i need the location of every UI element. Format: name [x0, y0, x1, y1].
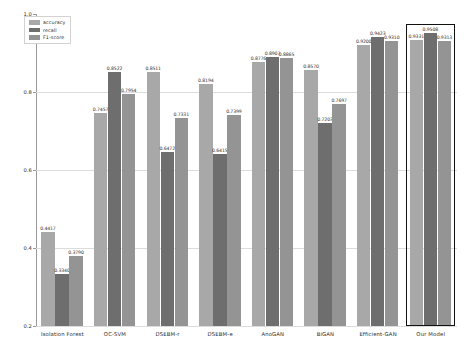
bar-group: 0.74570.85220.7954 [94, 14, 136, 326]
y-axis-tick-label: 0.4 [23, 245, 32, 251]
bar-value-label: 0.9313 [437, 35, 452, 40]
bar-f1-score: 0.8865 [280, 58, 293, 326]
y-axis-tick-label: 0.8 [23, 89, 32, 95]
bar-value-label: 0.8570 [303, 64, 318, 69]
x-axis-tick-label: Isolation Forest [41, 331, 84, 337]
legend-item-f1-score: F1-score [29, 35, 65, 40]
y-axis-tick-label: 0.6 [23, 167, 32, 173]
bar-f1-score: 0.7399 [227, 115, 240, 326]
bar-value-label: 0.8776 [251, 56, 266, 61]
x-axis-tick-label: DSEBM-e [208, 331, 233, 337]
bar-group: 0.85700.72030.7697 [304, 14, 346, 326]
bar-group: 0.81940.64150.7399 [199, 14, 241, 326]
bar-group: 0.92000.94230.9310 [357, 14, 399, 326]
chart-legend: accuracy recall F1-score [24, 16, 71, 44]
x-axis-tick-label: DSEBM-r [155, 331, 179, 337]
bar-group: 0.87760.89070.8865 [252, 14, 294, 326]
y-axis-tick-mark [33, 326, 36, 327]
bar-value-label: 0.7954 [121, 88, 136, 93]
bar-group: 0.44170.33400.3790 [41, 14, 83, 326]
bar-group: 0.85110.64720.7331 [147, 14, 189, 326]
x-axis-tick-label: AnoGAN [261, 331, 284, 337]
bar-f1-score: 0.7697 [332, 104, 345, 326]
bar-accuracy: 0.7457 [94, 113, 107, 326]
gridline [36, 326, 457, 327]
plot-area: 1.00.80.60.40.2 0.44170.33400.37900.7457… [36, 14, 457, 326]
y-axis-tick-mark [33, 14, 36, 15]
legend-swatch-recall [29, 28, 40, 33]
y-axis-tick-mark [33, 248, 36, 249]
bar-value-label: 0.6472 [159, 146, 174, 151]
bar-recall: 0.9508 [424, 33, 437, 326]
bar-f1-score: 0.7331 [175, 118, 188, 326]
bar-value-label: 0.7399 [226, 109, 241, 114]
legend-item-recall: recall [29, 28, 65, 33]
bar-value-label: 0.8522 [107, 66, 122, 71]
bar-accuracy: 0.8194 [199, 84, 212, 326]
legend-label-recall: recall [43, 28, 57, 33]
bar-value-label: 0.8865 [279, 52, 294, 57]
bar-accuracy: 0.9331 [410, 40, 423, 326]
bar-value-label: 0.7331 [174, 112, 189, 117]
bar-value-label: 0.9200 [356, 39, 371, 44]
bar-value-label: 0.9331 [409, 34, 424, 39]
bar-f1-score: 0.3790 [69, 256, 82, 326]
x-axis-tick-label: Our Model [416, 331, 445, 337]
bar-recall: 0.8522 [108, 72, 121, 326]
y-axis-tick-mark [33, 92, 36, 93]
bar-accuracy: 0.9200 [357, 45, 370, 326]
bar-accuracy: 0.4417 [41, 232, 54, 326]
x-axis-tick-label: OC-SVM [104, 331, 126, 337]
bar-value-label: 0.3340 [54, 268, 69, 273]
legend-label-accuracy: accuracy [43, 20, 65, 25]
bar-value-label: 0.9508 [423, 27, 438, 32]
x-axis-tick-label: Efficient-GAN [359, 331, 396, 337]
bar-value-label: 0.9310 [384, 35, 399, 40]
bar-f1-score: 0.9313 [438, 41, 451, 326]
bar-recall: 0.6472 [161, 152, 174, 326]
bar-accuracy: 0.8570 [304, 70, 317, 326]
bar-chart-figure: 1.00.80.60.40.2 0.44170.33400.37900.7457… [0, 0, 467, 354]
bar-value-label: 0.8511 [145, 66, 160, 71]
bar-f1-score: 0.7954 [122, 94, 135, 326]
bar-recall: 0.6415 [213, 154, 226, 326]
legend-label-f1-score: F1-score [43, 35, 64, 40]
bar-value-label: 0.8194 [198, 78, 213, 83]
bar-recall: 0.9423 [371, 37, 384, 326]
bar-recall: 0.8907 [266, 57, 279, 326]
bar-f1-score: 0.9310 [385, 41, 398, 326]
bar-accuracy: 0.8511 [147, 72, 160, 326]
bar-value-label: 0.7203 [317, 117, 332, 122]
bar-group: 0.93310.95080.9313 [410, 14, 452, 326]
bar-accuracy: 0.8776 [252, 62, 265, 326]
bar-recall: 0.7203 [318, 123, 331, 326]
x-axis-tick-label: BiGAN [317, 331, 335, 337]
bar-value-label: 0.6415 [212, 148, 227, 153]
bar-recall: 0.3340 [55, 274, 68, 326]
bar-value-label: 0.7697 [331, 98, 346, 103]
bar-value-label: 0.3790 [68, 250, 83, 255]
bar-value-label: 0.4417 [40, 226, 55, 231]
legend-item-accuracy: accuracy [29, 20, 65, 25]
legend-swatch-accuracy [29, 20, 40, 25]
bar-value-label: 0.7457 [93, 107, 108, 112]
y-axis-tick-mark [33, 170, 36, 171]
legend-swatch-f1-score [29, 35, 40, 40]
y-axis-tick-label: 0.2 [23, 323, 32, 329]
